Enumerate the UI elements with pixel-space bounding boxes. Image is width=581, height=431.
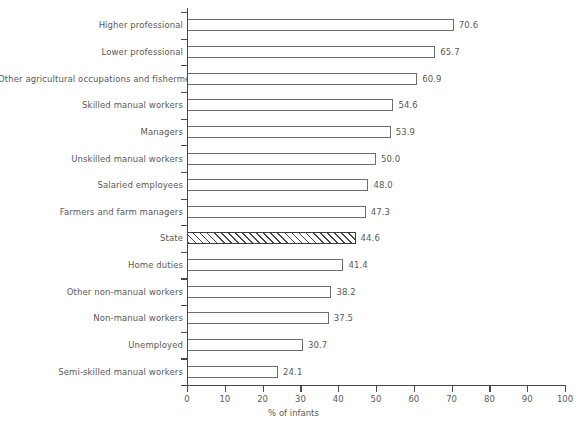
- category-label-wrap: Other agricultural occupations and fishe…: [0, 65, 183, 92]
- y-axis-tick: [181, 305, 187, 306]
- bar-value-label: 48.0: [373, 180, 392, 190]
- y-axis-tick: [181, 225, 187, 226]
- x-axis-tick: [527, 386, 528, 392]
- x-axis-tick: [225, 386, 226, 392]
- bar-value-label: 54.6: [398, 100, 417, 110]
- bar: [187, 366, 278, 378]
- bar-row: Home duties41.4: [187, 252, 565, 279]
- bar-row: Managers53.9: [187, 119, 565, 146]
- x-axis-tick-label: 90: [522, 394, 533, 404]
- bar-chart: Higher professional70.6Lower professiona…: [0, 0, 581, 431]
- bar: [187, 19, 454, 31]
- category-label-wrap: Higher professional: [0, 12, 183, 39]
- y-axis-tick: [181, 65, 187, 66]
- y-axis-tick: [181, 92, 187, 93]
- bar-highlighted: [187, 232, 356, 244]
- bar: [187, 153, 376, 165]
- category-label: Higher professional: [0, 20, 183, 30]
- x-axis-tick: [452, 386, 453, 392]
- bar: [187, 73, 417, 85]
- bar-row: Farmers and farm managers47.3: [187, 199, 565, 226]
- category-label: Unemployed: [0, 340, 183, 350]
- bar-value-label: 65.7: [440, 47, 459, 57]
- x-axis-tick: [263, 386, 264, 392]
- y-axis-tick: [181, 145, 187, 146]
- y-axis-line: [187, 8, 188, 389]
- category-label: Semi-skilled manual workers: [0, 367, 183, 377]
- bar-value-label: 37.5: [334, 313, 353, 323]
- y-axis-tick: [181, 12, 187, 13]
- x-axis-title: % of infants: [0, 408, 581, 418]
- bar-value-label: 30.7: [308, 340, 327, 350]
- y-axis-tick: [181, 252, 187, 253]
- bar-value-label: 47.3: [371, 207, 390, 217]
- y-axis-tick: [181, 199, 187, 200]
- category-label-wrap: Unskilled manual workers: [0, 145, 183, 172]
- bar: [187, 286, 331, 298]
- bar-value-label: 38.2: [336, 287, 355, 297]
- bar: [187, 99, 393, 111]
- category-label: Managers: [0, 127, 183, 137]
- category-label-wrap: Managers: [0, 119, 183, 146]
- x-axis-tick-label: 100: [557, 394, 573, 404]
- bar: [187, 259, 343, 271]
- category-label-wrap: Farmers and farm managers: [0, 199, 183, 226]
- bar-row: Unemployed30.7: [187, 332, 565, 359]
- x-axis-tick: [414, 386, 415, 392]
- bar: [187, 206, 366, 218]
- category-label: Home duties: [0, 260, 183, 270]
- category-label-wrap: Semi-skilled manual workers: [0, 358, 183, 385]
- category-label-wrap: Non-manual workers: [0, 305, 183, 332]
- x-axis-tick-label: 60: [408, 394, 419, 404]
- bar-value-label: 70.6: [459, 20, 478, 30]
- bar-value-label: 50.0: [381, 154, 400, 164]
- bar: [187, 126, 391, 138]
- category-label: Other agricultural occupations and fishe…: [0, 74, 183, 84]
- bar-row: Higher professional70.6: [187, 12, 565, 39]
- bar-row: Other non-manual workers38.2: [187, 278, 565, 305]
- x-axis-tick-label: 0: [184, 394, 189, 404]
- bar-row: Other agricultural occupations and fishe…: [187, 65, 565, 92]
- y-axis-tick: [181, 119, 187, 120]
- y-axis-tick: [181, 358, 187, 359]
- bar-row: State44.6: [187, 225, 565, 252]
- y-axis-tick: [181, 278, 187, 279]
- x-axis-tick-label: 70: [446, 394, 457, 404]
- bar-value-label: 53.9: [396, 127, 415, 137]
- x-axis-tick-label: 80: [484, 394, 495, 404]
- bar-row: Lower professional65.7: [187, 39, 565, 66]
- x-axis-tick-label: 40: [333, 394, 344, 404]
- bar-value-label: 44.6: [361, 233, 380, 243]
- y-axis-tick: [181, 172, 187, 173]
- y-axis-tick: [181, 39, 187, 40]
- category-label: Skilled manual workers: [0, 100, 183, 110]
- x-axis-tick: [187, 386, 188, 392]
- x-axis-tick: [338, 386, 339, 392]
- category-label-wrap: Unemployed: [0, 332, 183, 359]
- x-axis-tick: [300, 386, 301, 392]
- category-label: Farmers and farm managers: [0, 207, 183, 217]
- bar: [187, 312, 329, 324]
- category-label: Other non-manual workers: [0, 287, 183, 297]
- x-axis-tick: [489, 386, 490, 392]
- plot-area: Higher professional70.6Lower professiona…: [187, 12, 565, 385]
- category-label: Lower professional: [0, 47, 183, 57]
- category-label-wrap: Lower professional: [0, 39, 183, 66]
- bar-value-label: 24.1: [283, 367, 302, 377]
- category-label-wrap: Salaried employees: [0, 172, 183, 199]
- x-axis-tick-label: 50: [371, 394, 382, 404]
- bar-row: Semi-skilled manual workers24.1: [187, 358, 565, 385]
- x-axis-tick-label: 30: [295, 394, 306, 404]
- x-axis-tick-label: 10: [219, 394, 230, 404]
- bar-row: Salaried employees48.0: [187, 172, 565, 199]
- category-label-wrap: Other non-manual workers: [0, 278, 183, 305]
- category-label-wrap: Home duties: [0, 252, 183, 279]
- bar-row: Unskilled manual workers50.0: [187, 145, 565, 172]
- category-label-wrap: Skilled manual workers: [0, 92, 183, 119]
- bar-value-label: 41.4: [348, 260, 367, 270]
- category-label: Non-manual workers: [0, 313, 183, 323]
- category-label: State: [0, 233, 183, 243]
- bar: [187, 46, 435, 58]
- category-label: Unskilled manual workers: [0, 154, 183, 164]
- bar-row: Skilled manual workers54.6: [187, 92, 565, 119]
